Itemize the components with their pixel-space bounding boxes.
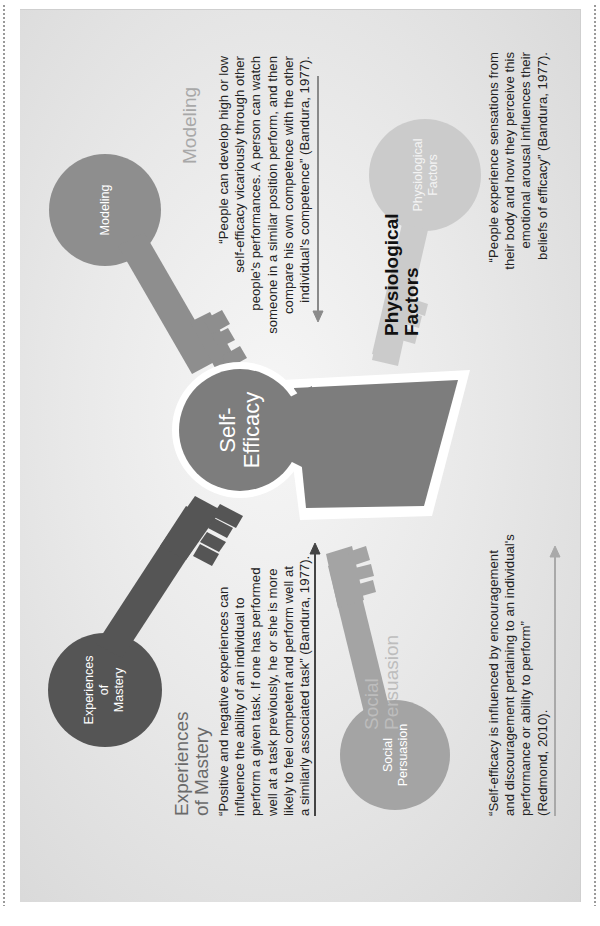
physiological-circle-line1: Physiological: [411, 125, 426, 225]
physiological-quote-line: beliefs of efficacy” (Bandura, 1977).: [535, 52, 551, 302]
mastery-quote-line: likely to feel competent and perform wel…: [281, 556, 297, 816]
mastery-quote-line: “Positive and negative experiences can: [216, 556, 232, 816]
physiological-circle-line2: Factors: [426, 125, 441, 225]
diagram-panel: Self- Efficacy Experiences of Mastery Mo…: [20, 9, 581, 902]
social-title-line1: Social: [362, 635, 382, 730]
mastery-quote-line: well at a task previously, he or she is …: [265, 556, 281, 816]
mastery-quote-line: influence the ability of an individual t…: [232, 556, 248, 816]
social-quote-line: performance or ability to perform”: [518, 534, 534, 816]
physiological-circle-label: Physiological Factors: [411, 125, 441, 225]
social-title-line2: Persuasion: [382, 635, 402, 730]
social-title: Social Persuasion: [362, 635, 402, 730]
social-quote-line: “Self-efficacy is influenced by encourag…: [486, 534, 502, 816]
mastery-circle-line2: of: [97, 640, 112, 740]
physiological-quote-line: “People experience sensations from: [486, 52, 502, 302]
self-efficacy-line2: Efficacy: [240, 380, 264, 480]
modeling-circle-label: Modeling: [98, 160, 113, 260]
modeling-quote-line: compare his own competence with the othe…: [281, 56, 297, 342]
mastery-title-line2: of Mastery: [192, 711, 212, 816]
social-quote: “Self-efficacy is influenced by encourag…: [486, 534, 551, 816]
modeling-title: Modeling: [180, 87, 200, 164]
self-efficacy-label: Self- Efficacy: [216, 380, 264, 480]
modeling-quote-line: someone in a similar position perform, a…: [265, 56, 281, 342]
modeling-quote-line: people's performances. A person can watc…: [248, 56, 264, 342]
physiological-quote: “People experience sensations from their…: [486, 52, 551, 302]
modeling-quote-line: self-efficacy vicariously through other: [232, 56, 248, 342]
social-quote-line: and discouragement pertaining to an indi…: [502, 534, 518, 816]
modeling-quote: “People can develop high or low self-eff…: [216, 56, 313, 342]
mastery-quote-line: perform a given task. If one has perform…: [248, 556, 264, 816]
mastery-title-line1: Experiences: [172, 711, 192, 816]
mastery-circle-line3: Mastery: [112, 640, 127, 740]
self-efficacy-line1: Self-: [216, 380, 240, 480]
physiological-title-line1: Physiological: [382, 214, 402, 336]
mastery-key-icon: [20, 496, 243, 902]
social-arrow-icon: [550, 546, 560, 816]
mastery-circle-line1: Experiences: [82, 640, 97, 740]
social-quote-line: (Redmond, 2010).: [535, 534, 551, 816]
modeling-quote-line: individual's competence” (Bandura, 1977)…: [297, 56, 313, 342]
modeling-arrow-icon: [313, 76, 323, 322]
mastery-quote: “Positive and negative experiences can i…: [216, 556, 313, 816]
mastery-title: Experiences of Mastery: [172, 711, 212, 816]
physiological-title: Physiological Factors: [382, 214, 422, 336]
self-efficacy-diagram: Self- Efficacy Experiences of Mastery Mo…: [0, 0, 600, 926]
mastery-quote-line: a similarly associated task” (Bandura, 1…: [297, 556, 313, 816]
mastery-circle-label: Experiences of Mastery: [82, 640, 127, 740]
physiological-quote-line: emotional arousal influences their: [518, 52, 534, 302]
modeling-quote-line: “People can develop high or low: [216, 56, 232, 342]
physiological-title-line2: Factors: [402, 214, 422, 336]
physiological-quote-line: their body and how they perceive this: [502, 52, 518, 302]
